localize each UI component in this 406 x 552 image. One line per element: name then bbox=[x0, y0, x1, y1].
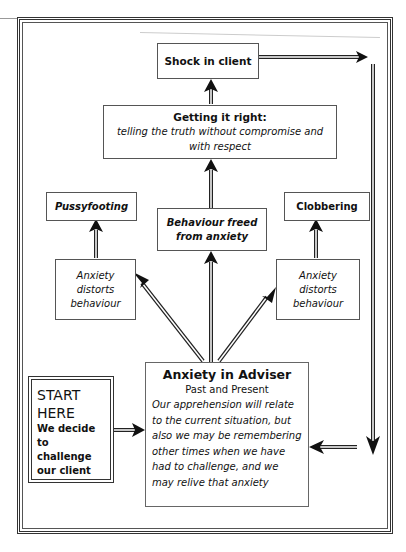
arrow-anxiety-to-distort-left bbox=[133, 272, 203, 361]
node-line-3: behaviour bbox=[293, 297, 343, 311]
node-behaviour-freed: Behaviour freed from anxiety bbox=[157, 208, 267, 251]
arrow-anxiety-to-distort-right bbox=[219, 287, 276, 361]
start-title-2: HERE bbox=[37, 404, 105, 422]
node-anxiety-distorts-left: Anxiety distorts behaviour bbox=[55, 259, 136, 320]
node-subtitle: telling the truth without compromise and… bbox=[108, 124, 332, 154]
node-subtitle: Past and Present bbox=[152, 383, 302, 397]
node-label: Pussyfooting bbox=[55, 200, 128, 214]
node-anxiety-in-adviser: Anxiety in Adviser Past and Present Our … bbox=[145, 362, 309, 507]
start-title-1: START bbox=[37, 386, 105, 404]
start-line-2: to challenge bbox=[37, 436, 105, 464]
node-shock-in-client: Shock in client bbox=[157, 43, 259, 79]
node-getting-it-right: Getting it right: telling the truth with… bbox=[103, 105, 337, 159]
node-start-here: START HERE We decide to challenge our cl… bbox=[28, 376, 114, 483]
node-label: Shock in client bbox=[165, 55, 252, 68]
arrow-start-to-anxiety bbox=[114, 423, 145, 437]
node-line-1: Anxiety bbox=[299, 269, 337, 283]
node-line-2: from anxiety bbox=[176, 230, 248, 244]
node-line-2: distorts bbox=[77, 283, 115, 297]
arrow-shock-to-right bbox=[258, 51, 368, 63]
node-line-1: Anxiety bbox=[77, 269, 115, 283]
node-line-1: Behaviour freed bbox=[167, 216, 258, 230]
arrow-anxiety-to-freed bbox=[204, 251, 218, 362]
arrow-distort-to-pussyfooting bbox=[89, 219, 103, 258]
node-line-2: distorts bbox=[299, 283, 337, 297]
node-body: Our apprehension will relate to the curr… bbox=[152, 397, 302, 490]
arrow-freed-to-right bbox=[204, 159, 218, 208]
node-title: Anxiety in Adviser bbox=[152, 367, 302, 383]
node-title: Getting it right: bbox=[173, 111, 266, 124]
node-label: Clobbering bbox=[296, 200, 357, 214]
node-pussyfooting: Pussyfooting bbox=[46, 192, 137, 221]
arrow-right-to-shock bbox=[204, 79, 218, 104]
arrow-loop-to-anxiety bbox=[309, 440, 357, 454]
arrow-distort-to-clobbering bbox=[309, 219, 323, 258]
node-line-3: behaviour bbox=[70, 297, 120, 311]
start-line-3: our client bbox=[37, 464, 105, 478]
node-clobbering: Clobbering bbox=[284, 192, 370, 221]
arrow-right-down bbox=[366, 64, 380, 455]
start-line-1: We decide bbox=[37, 422, 105, 436]
node-anxiety-distorts-right: Anxiety distorts behaviour bbox=[276, 259, 360, 320]
